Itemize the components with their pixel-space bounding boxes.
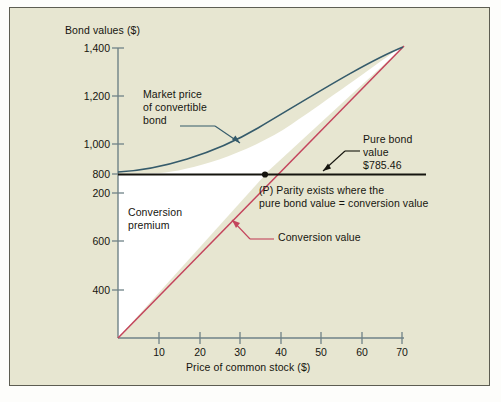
pure-bond-value-annotation-arrow xyxy=(323,151,360,171)
pure-bond-value-annotation: Pure bond value $785.46 xyxy=(363,133,412,172)
y-tick-label-600: 600 xyxy=(68,236,110,247)
x-axis-title: Price of common stock ($) xyxy=(186,361,310,374)
y-tick-label-1200: 1,200 xyxy=(68,91,110,102)
pure-bond-value-annotation-line1: Pure bond xyxy=(363,133,412,146)
y-tick-label-1000: 1,000 xyxy=(68,139,110,150)
bond-values-chart-figure: 1,400 1,200 1,000 800 600 400 200 10 20 … xyxy=(0,0,501,402)
parity-annotation-line2: pure bond value = conversion value xyxy=(259,197,428,210)
y-axis-title: Bond values ($) xyxy=(65,24,140,37)
conversion-premium-annotation: Conversion premium xyxy=(128,206,182,232)
y-tick-label-400: 400 xyxy=(68,285,110,296)
market-price-annotation: Market price of convertible bond xyxy=(143,88,207,127)
x-tick-label-50: 50 xyxy=(307,347,335,358)
y-tick-label-1400: 1,400 xyxy=(68,43,110,54)
x-tick-label-30: 30 xyxy=(226,347,254,358)
conversion-premium-annotation-line2: premium xyxy=(128,219,182,232)
y-tick-label-800: 800 xyxy=(68,169,110,180)
x-tick-label-20: 20 xyxy=(186,347,214,358)
conversion-premium-annotation-line1: Conversion xyxy=(128,206,182,219)
market-price-annotation-arrow xyxy=(180,126,240,143)
x-tick-label-40: 40 xyxy=(267,347,295,358)
conversion-value-annotation-label: Conversion value xyxy=(278,231,361,244)
parity-point-marker xyxy=(262,171,268,177)
x-tick-label-10: 10 xyxy=(145,347,173,358)
market-price-annotation-line1: Market price xyxy=(143,88,207,101)
market-price-annotation-line2: of convertible xyxy=(143,101,207,114)
lower-white-region xyxy=(118,175,265,338)
parity-annotation-line1: (P) Parity exists where the xyxy=(259,184,428,197)
conversion-value-annotation-arrow xyxy=(232,220,274,239)
parity-annotation: (P) Parity exists where the pure bond va… xyxy=(259,184,428,210)
pure-bond-value-annotation-line2: value xyxy=(363,146,412,159)
y-tick-label-200: 200 xyxy=(68,188,110,199)
pure-bond-value-amount: $785.46 xyxy=(363,159,412,172)
market-price-annotation-line3: bond xyxy=(143,114,207,127)
x-tick-label-70: 70 xyxy=(388,347,416,358)
x-tick-label-60: 60 xyxy=(348,347,376,358)
